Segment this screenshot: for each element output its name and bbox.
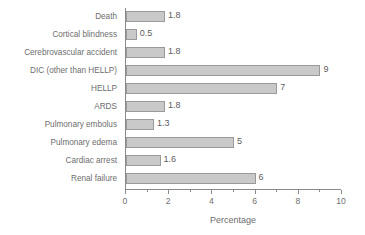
bar-row: 1.8 xyxy=(125,8,341,26)
bar-value-label: 1.3 xyxy=(157,118,170,128)
x-tick-major xyxy=(168,190,169,194)
category-label: ARDS xyxy=(0,98,121,116)
category-label: Pulmonary embolus xyxy=(0,116,121,134)
bar xyxy=(126,101,165,112)
bar-value-label: 1.6 xyxy=(164,154,177,164)
bar-value-label: 1.8 xyxy=(168,46,181,56)
x-tick-major xyxy=(211,190,212,194)
x-tick-major xyxy=(298,190,299,194)
category-label: HELLP xyxy=(0,80,121,98)
bar xyxy=(126,47,165,58)
bar-value-label: 5 xyxy=(237,136,242,146)
bar-value-label: 1.8 xyxy=(168,10,181,20)
x-tick-minor xyxy=(276,190,277,192)
bar-row: 1.3 xyxy=(125,116,341,134)
bar-chart: DeathCortical blindnessCerebrovascular a… xyxy=(0,0,365,235)
x-tick-minor xyxy=(233,190,234,192)
x-tick-label: 10 xyxy=(336,196,346,206)
bar xyxy=(126,119,154,130)
bar-row: 1.8 xyxy=(125,98,341,116)
category-label: Cardiac arrest xyxy=(0,152,121,170)
bar xyxy=(126,65,320,76)
x-tick-major xyxy=(255,190,256,194)
category-label: DIC (other than HELLP) xyxy=(0,62,121,80)
bar-series: 1.80.51.8971.81.351.66 xyxy=(125,8,341,188)
bar xyxy=(126,11,165,22)
bar-value-label: 1.8 xyxy=(168,100,181,110)
x-tick-label: 6 xyxy=(252,196,257,206)
category-label: Cortical blindness xyxy=(0,26,121,44)
x-tick-minor xyxy=(147,190,148,192)
bar xyxy=(126,83,277,94)
x-tick-label: 0 xyxy=(123,196,128,206)
category-label: Pulmonary edema xyxy=(0,134,121,152)
bar-row: 9 xyxy=(125,62,341,80)
bar-row: 7 xyxy=(125,80,341,98)
bar-row: 1.8 xyxy=(125,44,341,62)
category-label: Death xyxy=(0,8,121,26)
bar xyxy=(126,173,256,184)
x-tick-minor xyxy=(319,190,320,192)
x-tick-label: 8 xyxy=(295,196,300,206)
x-axis-title: Percentage xyxy=(125,215,341,225)
bar-row: 5 xyxy=(125,134,341,152)
bar-value-label: 9 xyxy=(323,64,328,74)
bar-row: 0.5 xyxy=(125,26,341,44)
x-tick-minor xyxy=(190,190,191,192)
category-label: Cerebrovascular accident xyxy=(0,44,121,62)
bar-row: 6 xyxy=(125,170,341,188)
plot-area: 1.80.51.8971.81.351.66 0246810 Percentag… xyxy=(125,8,341,188)
bar xyxy=(126,155,161,166)
bar-row: 1.6 xyxy=(125,152,341,170)
bar-value-label: 7 xyxy=(280,82,285,92)
bar xyxy=(126,137,234,148)
bar-value-label: 0.5 xyxy=(140,28,153,38)
bar xyxy=(126,29,137,40)
bar-value-label: 6 xyxy=(259,172,264,182)
x-tick-label: 2 xyxy=(166,196,171,206)
x-tick-major xyxy=(341,190,342,194)
x-tick-label: 4 xyxy=(209,196,214,206)
x-tick-major xyxy=(125,190,126,194)
category-label: Renal failure xyxy=(0,170,121,188)
category-axis-labels: DeathCortical blindnessCerebrovascular a… xyxy=(0,8,121,188)
